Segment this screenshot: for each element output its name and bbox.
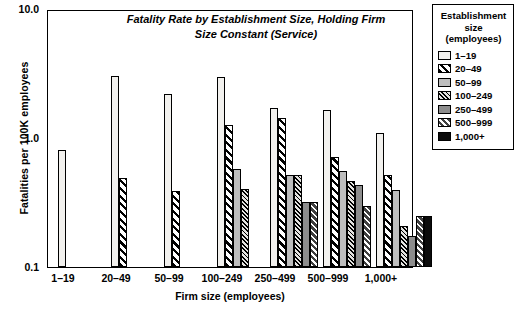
bar-stack <box>164 11 180 267</box>
legend-item-label: 1,000+ <box>455 131 485 142</box>
plot-area: Fatality Rate by Establishment Size, Hol… <box>47 10 413 268</box>
legend-item[interactable]: 1–19 <box>438 49 509 63</box>
bar-stack <box>376 11 432 267</box>
bar <box>58 150 66 267</box>
bar <box>164 94 172 267</box>
legend-swatch-icon <box>438 132 451 141</box>
bar <box>392 190 400 267</box>
chart-figure: Fatalities per 100K employees 10.0 1.0 0… <box>0 0 517 311</box>
legend-title: Establishment size (employees) <box>438 10 509 45</box>
legend-title-line-2: size <box>438 22 509 34</box>
bar <box>416 216 424 267</box>
bar-stack <box>270 11 318 267</box>
bar <box>225 125 233 267</box>
x-tick-label-6: 1,000+ <box>344 272 418 284</box>
legend-item-label: 20–49 <box>455 63 482 74</box>
legend-items: 1–1920–4950–99100–249250–499500–9991,000… <box>438 49 509 144</box>
legend-item-label: 1–19 <box>455 50 476 61</box>
legend-swatch-icon <box>438 78 451 87</box>
legend: Establishment size (employees) 1–1920–49… <box>432 4 514 150</box>
bar <box>172 191 180 267</box>
bar <box>331 157 339 267</box>
bar <box>355 185 363 267</box>
bar <box>323 110 331 267</box>
bar <box>302 202 310 267</box>
bar <box>294 175 302 267</box>
bar-stack <box>323 11 371 267</box>
x-axis-title: Firm size (employees) <box>47 290 413 302</box>
legend-item-label: 100–249 <box>455 90 492 101</box>
bar <box>233 169 241 267</box>
legend-title-line-1: Establishment <box>438 10 509 22</box>
bar <box>217 77 225 267</box>
legend-swatch-icon <box>438 51 451 60</box>
legend-swatch-icon <box>438 64 451 73</box>
legend-item-label: 50–99 <box>455 77 482 88</box>
legend-swatch-icon <box>438 91 451 100</box>
bar <box>119 178 127 267</box>
bar <box>400 226 408 267</box>
bar <box>347 181 355 267</box>
bar <box>339 171 347 267</box>
bar <box>111 76 119 267</box>
bar <box>270 108 278 267</box>
bar <box>408 236 416 267</box>
bar-stack <box>58 11 66 267</box>
bar-stack <box>217 11 249 267</box>
legend-item-label: 500–999 <box>455 117 492 128</box>
bar-groups <box>48 11 412 267</box>
legend-item[interactable]: 100–249 <box>438 89 509 103</box>
bar <box>286 175 294 267</box>
legend-swatch-icon <box>438 105 451 114</box>
legend-swatch-icon <box>438 118 451 127</box>
bar <box>241 189 249 267</box>
bar <box>310 202 318 267</box>
bar <box>384 175 392 267</box>
bar-stack <box>111 11 127 267</box>
bar <box>424 216 432 267</box>
legend-item[interactable]: 250–499 <box>438 103 509 117</box>
legend-item[interactable]: 50–99 <box>438 76 509 90</box>
y-tick-label-10: 10.0 <box>5 3 39 15</box>
bar <box>376 133 384 267</box>
legend-item[interactable]: 1,000+ <box>438 130 509 144</box>
y-tick-label-1: 1.0 <box>5 132 39 144</box>
bar <box>363 206 371 267</box>
legend-item[interactable]: 20–49 <box>438 62 509 76</box>
legend-title-line-3: (employees) <box>438 33 509 45</box>
legend-item[interactable]: 500–999 <box>438 116 509 130</box>
legend-item-label: 250–499 <box>455 104 492 115</box>
bar <box>278 118 286 267</box>
